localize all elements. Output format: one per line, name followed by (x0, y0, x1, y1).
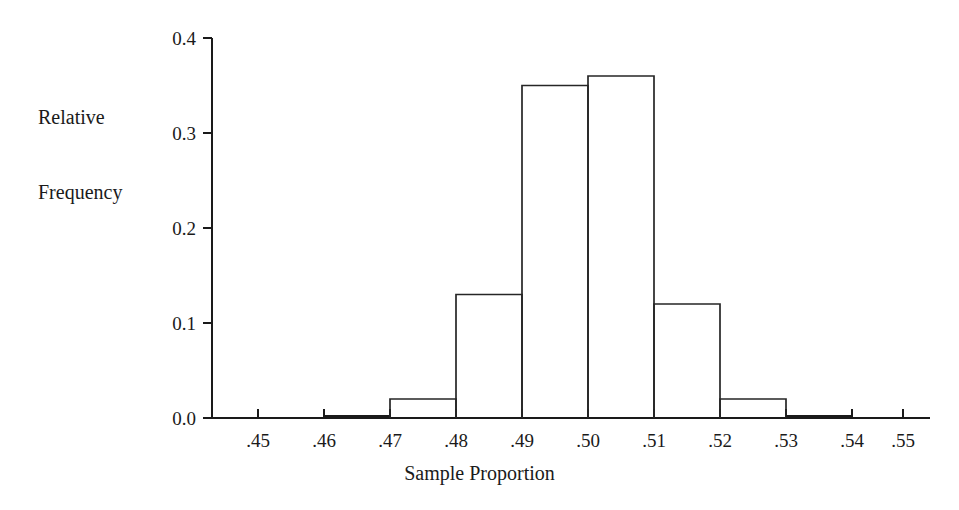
x-tick-label-10: .55 (891, 430, 915, 451)
x-tick-label-3: .48 (444, 430, 468, 451)
x-tick-label-2: .47 (378, 430, 402, 451)
histogram-bar (786, 415, 852, 418)
histogram-bar (522, 86, 588, 419)
x-tick-label-1: .46 (312, 430, 336, 451)
x-tick-labels-group: .45 .46 .47 .48 .49 .50 .51 .52 .53 .54 … (246, 430, 915, 451)
y-tick-label-3: 0.3 (172, 123, 196, 144)
histogram-plot: 0.4 0.3 0.2 0.1 0.0 .45 .46 .47 .48 .49 … (0, 0, 959, 510)
y-tick-label-2: 0.2 (172, 218, 196, 239)
x-axis-title: Sample Proportion (0, 462, 959, 485)
y-axis-title-line1: Relative (38, 105, 122, 130)
x-tick-label-5: .50 (576, 430, 600, 451)
y-tick-labels-group: 0.4 0.3 0.2 0.1 0.0 (172, 28, 196, 429)
x-tick-label-4: .49 (510, 430, 534, 451)
y-axis-title: Relative Frequency (38, 55, 122, 255)
y-axis-title-line2: Frequency (38, 180, 122, 205)
y-tick-label-0: 0.0 (172, 408, 196, 429)
histogram-bars-group (324, 76, 852, 418)
histogram-bar (654, 304, 720, 418)
histogram-bar (720, 399, 786, 418)
histogram-figure: 0.4 0.3 0.2 0.1 0.0 .45 .46 .47 .48 .49 … (0, 0, 959, 510)
x-tick-label-8: .53 (774, 430, 798, 451)
histogram-bar (588, 76, 654, 418)
x-tick-label-7: .52 (708, 430, 732, 451)
x-tick-label-0: .45 (246, 430, 270, 451)
axes-group (212, 38, 930, 418)
y-tick-label-1: 0.1 (172, 313, 196, 334)
y-tick-label-4: 0.4 (172, 28, 196, 49)
x-tick-label-9: .54 (840, 430, 864, 451)
x-tick-label-6: .51 (642, 430, 666, 451)
histogram-bar (390, 399, 456, 418)
y-ticks-group (203, 38, 212, 418)
histogram-bar (324, 415, 390, 418)
histogram-bar (456, 295, 522, 419)
